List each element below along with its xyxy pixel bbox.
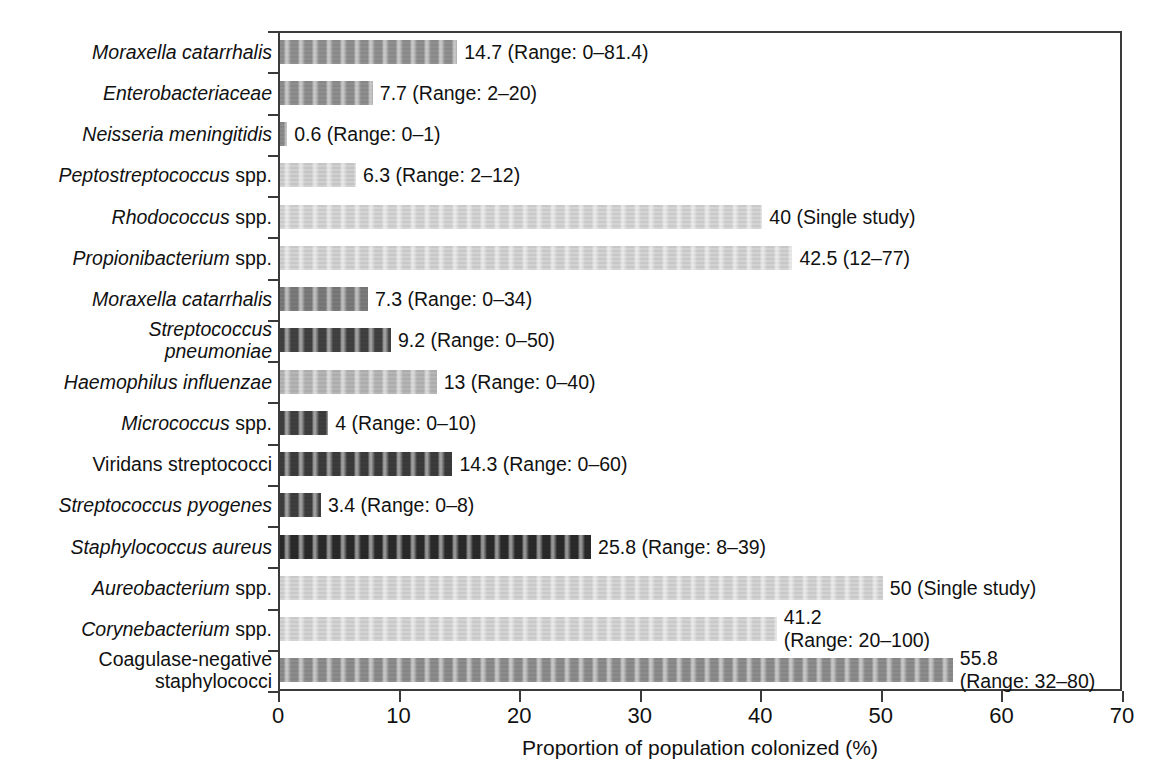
category-label: Peptostreptococcus spp. [0,164,272,186]
x-axis-tick-label: 30 [627,703,651,729]
bar[interactable] [280,122,287,146]
x-axis-tick-label: 50 [869,703,893,729]
bar-row: Neisseria meningitidis0.6 (Range: 0–1) [0,114,1160,155]
category-label: Haemophilus influenzae [0,371,272,393]
bar[interactable] [280,617,777,641]
x-axis-tick-label: 70 [1110,703,1134,729]
x-axis-tick-label: 60 [989,703,1013,729]
bar-value-label: 7.3 (Range: 0–34) [375,288,532,310]
x-axis-tick-label: 10 [386,703,410,729]
bar-value-label: 40 (Single study) [769,206,915,228]
bar-chart-figure: Moraxella catarrhalis14.7 (Range: 0–81.4… [0,0,1160,777]
bar[interactable] [280,493,321,517]
bar-row: Streptococcus pyogenes3.4 (Range: 0–8) [0,485,1160,526]
category-label: Streptococcus pyogenes [0,494,272,516]
bar[interactable] [280,40,457,64]
bar-row: Rhodococcus spp.40 (Single study) [0,196,1160,237]
bar-value-label: 7.7 (Range: 2–20) [380,82,537,104]
x-axis-tick [1122,691,1124,702]
bar-row: Staphylococcus aureus25.8 (Range: 8–39) [0,526,1160,567]
bar-row: Propionibacterium spp.42.5 (12–77) [0,237,1160,278]
bar[interactable] [280,246,792,270]
bar[interactable] [280,163,356,187]
bar-row: Moraxella catarrhalis7.3 (Range: 0–34) [0,279,1160,320]
bar[interactable] [280,535,591,559]
bar-value-label: 4 (Range: 0–10) [335,412,476,434]
category-label: Viridans streptococci [0,453,272,475]
bar-rows-container: Moraxella catarrhalis14.7 (Range: 0–81.4… [0,31,1160,691]
category-label: Moraxella catarrhalis [0,288,272,310]
category-label: Coagulase-negative staphylococci [0,648,272,692]
bar[interactable] [280,576,883,600]
category-label: Enterobacteriaceae [0,82,272,104]
x-axis-tick-label: 20 [507,703,531,729]
y-axis-tick [268,31,279,33]
category-label: Neisseria meningitidis [0,123,272,145]
category-label: Streptococcus pneumoniae [0,318,272,362]
bar-row: Viridans streptococci14.3 (Range: 0–60) [0,444,1160,485]
bar-value-label: 14.7 (Range: 0–81.4) [464,41,648,63]
bar-value-label: 25.8 (Range: 8–39) [598,536,766,558]
bar[interactable] [280,411,328,435]
category-label: Staphylococcus aureus [0,536,272,558]
bar-row: Moraxella catarrhalis14.7 (Range: 0–81.4… [0,31,1160,72]
x-axis-tick-label: 0 [272,703,284,729]
x-axis-title: Proportion of population colonized (%) [278,736,1122,760]
x-axis-tick [1001,691,1003,702]
bar-value-label: 14.3 (Range: 0–60) [459,453,627,475]
x-axis-tick-label: 40 [748,703,772,729]
bar-value-label: 13 (Range: 0–40) [444,371,596,393]
bar[interactable] [280,81,373,105]
bar[interactable] [280,452,452,476]
bar-row: Streptococcus pneumoniae9.2 (Range: 0–50… [0,320,1160,361]
bar-row: Corynebacterium spp.41.2 (Range: 20–100) [0,609,1160,650]
bar-value-label: 9.2 (Range: 0–50) [398,329,555,351]
bar-row: Aureobacterium spp.50 (Single study) [0,567,1160,608]
category-label: Corynebacterium spp. [0,618,272,640]
bar-row: Haemophilus influenzae13 (Range: 0–40) [0,361,1160,402]
bar-value-label: 6.3 (Range: 2–12) [363,164,520,186]
bar-value-label: 42.5 (12–77) [799,247,910,269]
bar[interactable] [280,287,368,311]
bar-row: Coagulase-negative staphylococci55.8 (Ra… [0,650,1160,691]
bar-value-label: 3.4 (Range: 0–8) [328,494,474,516]
bar[interactable] [280,370,437,394]
bar-value-label: 50 (Single study) [890,577,1036,599]
bar-row: Micrococcus spp.4 (Range: 0–10) [0,402,1160,443]
bar-value-label: 55.8 (Range: 32–80) [960,647,1096,693]
category-label: Micrococcus spp. [0,412,272,434]
bar[interactable] [280,328,391,352]
category-label: Rhodococcus spp. [0,206,272,228]
category-label: Aureobacterium spp. [0,577,272,599]
bar[interactable] [280,658,953,682]
x-axis-tick [760,691,762,702]
bar-value-label: 41.2 (Range: 20–100) [784,606,930,652]
x-axis-tick [399,691,401,702]
category-label: Propionibacterium spp. [0,247,272,269]
x-axis-tick [640,691,642,702]
category-label: Moraxella catarrhalis [0,41,272,63]
bar[interactable] [280,205,762,229]
x-axis-tick [519,691,521,702]
bar-row: Peptostreptococcus spp.6.3 (Range: 2–12) [0,155,1160,196]
bar-row: Enterobacteriaceae7.7 (Range: 2–20) [0,72,1160,113]
x-axis-tick [278,691,280,702]
bar-value-label: 0.6 (Range: 0–1) [294,123,440,145]
x-axis-tick [881,691,883,702]
x-axis-tick-labels: 010203040506070 [0,703,1160,733]
